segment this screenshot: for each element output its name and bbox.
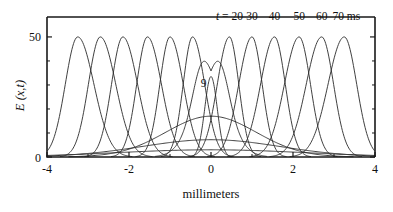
time-label-60: 60 xyxy=(316,10,328,22)
time-label-40: 40 xyxy=(269,10,281,22)
wave-curve xyxy=(208,37,286,157)
time-label-70-ms: 70 ms xyxy=(332,10,360,22)
x-tick-label: -4 xyxy=(42,162,52,176)
wave-curve xyxy=(136,37,214,157)
x-axis-title: millimeters xyxy=(183,187,240,201)
figure-container: -4-2024050millimeters t = 203040506070 m… xyxy=(0,0,393,212)
time-label-30: 30 xyxy=(246,10,258,22)
x-tick-label: 2 xyxy=(290,162,296,176)
y-axis-title-text: E (x,t) xyxy=(13,56,28,136)
x-tick-label: 4 xyxy=(372,162,378,176)
curves-group xyxy=(47,37,375,157)
y-tick-label: 50 xyxy=(29,30,41,44)
x-tick-label: -2 xyxy=(124,162,134,176)
time-label-50: 50 xyxy=(293,10,305,22)
wave-curve xyxy=(250,37,337,157)
center-annotation-9: 9 xyxy=(201,77,207,89)
y-axis-title: E (x,t) xyxy=(8,60,32,140)
time-label-20-value: = 20 xyxy=(219,10,243,22)
wave-propagation-plot: -4-2024050millimeters t = 203040506070 m… xyxy=(0,0,393,212)
wave-curve xyxy=(48,37,132,157)
axes-group xyxy=(47,17,375,157)
x-tick-label: 0 xyxy=(208,162,214,176)
y-tick-label: 0 xyxy=(35,151,41,165)
wave-curve xyxy=(61,37,153,157)
axes-frame xyxy=(47,17,375,157)
wave-curve xyxy=(85,37,172,157)
wave-curve xyxy=(290,37,374,157)
wave-curve xyxy=(270,37,362,157)
time-label-20: t = 20 xyxy=(216,10,243,22)
